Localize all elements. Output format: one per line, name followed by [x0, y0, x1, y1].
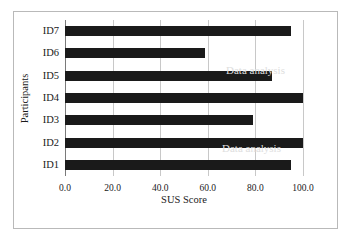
y-tick-label: ID3 [43, 115, 59, 126]
bar-row: ID7 [65, 20, 303, 42]
bar-row: ID5 [65, 65, 303, 87]
x-tick-label: 0.0 [59, 184, 71, 194]
x-tick-label: 40.0 [152, 184, 169, 194]
y-tick-label: ID7 [43, 26, 59, 37]
bar[interactable] [65, 115, 253, 125]
bar[interactable] [65, 48, 205, 58]
x-tick-label: 100.0 [292, 184, 313, 194]
bar-row: ID1 [65, 154, 303, 176]
bar-row: ID2 [65, 131, 303, 153]
x-tick-label: 20.0 [104, 184, 121, 194]
bar[interactable] [65, 93, 303, 103]
x-tick-label: 80.0 [247, 184, 264, 194]
bar-row: ID6 [65, 42, 303, 64]
y-tick-label: ID4 [43, 93, 59, 104]
bar[interactable] [65, 160, 291, 170]
y-tick-label: ID5 [43, 70, 59, 81]
x-gridline [303, 20, 304, 176]
x-axis-title: SUS Score [65, 194, 303, 205]
bar[interactable] [65, 71, 272, 81]
bar-row: ID3 [65, 109, 303, 131]
plot-area: 0.020.040.060.080.0100.0ID7ID6ID5ID4ID3I… [65, 20, 303, 176]
y-tick-label: ID1 [43, 160, 59, 171]
x-tick-label: 60.0 [199, 184, 216, 194]
y-tick-label: ID6 [43, 48, 59, 59]
bar[interactable] [65, 138, 303, 148]
chart-figure-frame: Participants 0.020.040.060.080.0100.0ID7… [13, 11, 338, 229]
y-tick-label: ID2 [43, 137, 59, 148]
y-axis-title: Participants [18, 20, 32, 176]
bar-row: ID4 [65, 87, 303, 109]
y-axis-title-text: Participants [20, 73, 31, 123]
bar[interactable] [65, 26, 291, 36]
